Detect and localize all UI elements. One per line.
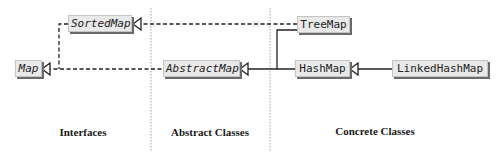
column-label-abstract-classes: Abstract Classes [165,126,255,138]
hashmap-arrowhead [350,63,358,75]
node-linkedhashmap-label: LinkedHashMap [397,62,483,75]
edge-treemap-abstractmap [277,30,297,69]
column-label-interfaces: Interfaces [45,126,121,138]
node-abstractmap-label: AbstractMap [166,62,239,75]
node-hashmap: HashMap [295,60,350,77]
node-linkedhashmap: LinkedHashMap [392,60,488,77]
edge-sortedmap-map [59,24,68,69]
sortedmap-arrowhead [133,18,141,30]
node-hashmap-label: HashMap [299,62,345,75]
node-sortedmap: SortedMap [68,15,132,32]
abstractmap-arrowhead [240,63,248,75]
node-treemap-label: TreeMap [300,18,346,31]
map-arrowhead [42,63,50,75]
class-diagram: Map SortedMap AbstractMap TreeMap HashMa… [0,0,497,160]
node-map: Map [15,60,42,77]
node-map-label: Map [19,62,39,75]
node-treemap: TreeMap [297,16,350,33]
column-label-concrete-classes: Concrete Classes [325,125,425,137]
node-abstractmap: AbstractMap [163,60,240,77]
node-sortedmap-label: SortedMap [71,17,131,30]
